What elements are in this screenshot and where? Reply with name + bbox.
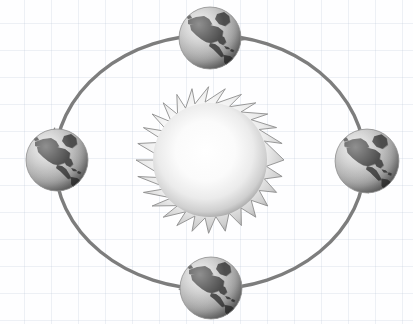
earth-left [26, 129, 88, 191]
sun [136, 87, 284, 234]
sun-core [153, 103, 267, 217]
earth-bottom [180, 257, 242, 319]
orbit-diagram-canvas [0, 0, 413, 324]
earth-right [335, 129, 399, 193]
diagram-svg [0, 0, 413, 324]
earth-top [179, 7, 241, 69]
